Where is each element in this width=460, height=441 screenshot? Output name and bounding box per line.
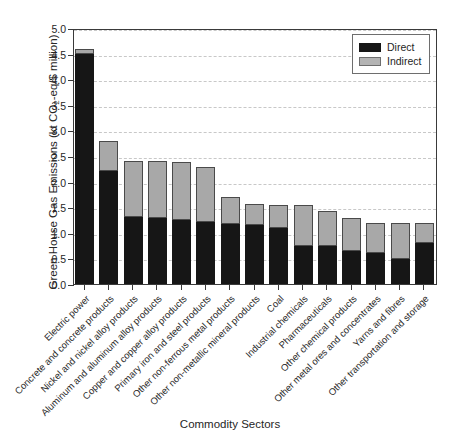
legend-swatch-indirect bbox=[359, 57, 381, 66]
legend-swatch-direct bbox=[359, 43, 381, 52]
legend-item-direct: Direct bbox=[359, 40, 421, 54]
chart-legend: Direct Indirect bbox=[352, 34, 430, 74]
legend-label-direct: Direct bbox=[387, 41, 414, 53]
chart-figure: Green House Gas Emissions (kt CO2-eq/$ m… bbox=[0, 0, 460, 441]
legend-label-indirect: Indirect bbox=[387, 55, 421, 67]
legend-item-indirect: Indirect bbox=[359, 54, 421, 68]
x-axis-title: Commodity Sectors bbox=[0, 418, 460, 430]
